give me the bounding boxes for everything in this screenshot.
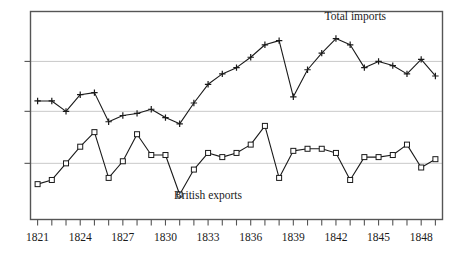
x-tick-label-1833: 1833 (197, 231, 220, 243)
annotation-total_imports_label: Total imports (325, 10, 387, 23)
data-point-marker (220, 155, 225, 160)
line-chart: 1821182418271830183318361839184218451848… (0, 0, 455, 256)
data-point-marker (348, 177, 353, 182)
data-point-marker (35, 182, 40, 187)
x-tick-label-1845: 1845 (367, 231, 390, 243)
data-point-marker (78, 144, 83, 149)
x-tick-label-1842: 1842 (324, 231, 347, 243)
data-point-marker (106, 175, 111, 180)
data-point-marker (277, 175, 282, 180)
x-tick-label-1827: 1827 (111, 231, 134, 243)
data-point-marker (49, 177, 54, 182)
data-point-marker (305, 146, 310, 151)
data-point-marker (376, 155, 381, 160)
data-point-marker (319, 146, 324, 151)
data-point-marker (433, 157, 438, 162)
data-point-marker (362, 155, 367, 160)
data-point-marker (248, 142, 253, 147)
data-point-marker (64, 161, 69, 166)
data-point-marker (419, 165, 424, 170)
data-point-marker (163, 153, 168, 158)
data-point-marker (92, 130, 97, 135)
x-tick-label-1839: 1839 (282, 231, 305, 243)
data-point-marker (333, 150, 338, 155)
x-tick-label-1830: 1830 (154, 231, 177, 243)
data-point-marker (404, 142, 409, 147)
data-point-marker (291, 148, 296, 153)
x-tick-label-1848: 1848 (410, 231, 433, 243)
x-tick-label-1836: 1836 (239, 231, 262, 243)
data-point-marker (149, 153, 154, 158)
x-tick-label-1824: 1824 (69, 231, 92, 243)
data-point-marker (234, 150, 239, 155)
chart-container: 1821182418271830183318361839184218451848… (0, 0, 455, 256)
data-point-marker (120, 159, 125, 164)
data-point-marker (262, 123, 267, 128)
data-point-marker (191, 167, 196, 172)
x-tick-label-1821: 1821 (26, 231, 49, 243)
data-point-marker (206, 150, 211, 155)
chart-background (0, 0, 455, 256)
data-point-marker (135, 132, 140, 137)
data-point-marker (390, 153, 395, 158)
annotation-british_exports_label: British exports (174, 189, 243, 202)
